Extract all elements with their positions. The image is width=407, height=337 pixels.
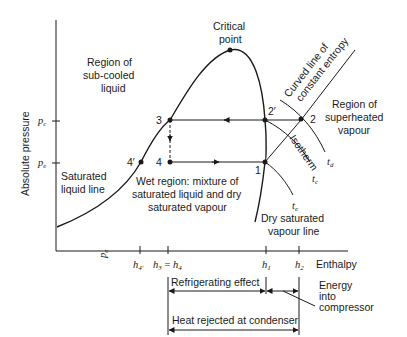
y-tick-pe: pe	[37, 157, 46, 170]
td-label: td	[327, 156, 334, 169]
svg-text:vapour line: vapour line	[268, 225, 320, 237]
x-tick-h4prime: h4′	[133, 259, 144, 272]
point-2prime	[263, 118, 268, 123]
saturated-liquid-label: Saturated liquid line	[61, 170, 107, 195]
subcooled-region-label: Region of sub-cooled liquid	[83, 56, 135, 94]
label-2prime: 2′	[268, 105, 276, 117]
critical-point-label-2: point	[219, 33, 242, 45]
svg-text:liquid: liquid	[101, 82, 126, 94]
svg-text:saturated liquid and dry: saturated liquid and dry	[132, 188, 242, 200]
x-tick-h1: h1	[262, 259, 271, 272]
svg-text:vapour: vapour	[338, 124, 371, 136]
isotherm-te	[265, 162, 293, 195]
wet-region-label: Wet region: mixture of saturated liquid …	[132, 175, 242, 213]
refrigerating-effect-label: Refrigerating effect	[171, 276, 260, 288]
label-2: 2	[310, 113, 316, 125]
superheated-region-label: Region of superheated vapour	[325, 98, 384, 136]
svg-text:liquid line: liquid line	[61, 183, 105, 195]
svg-text:Wet region: mixture of: Wet region: mixture of	[136, 175, 239, 187]
x-tick-h3-h4: h3 = h4	[153, 259, 182, 272]
y-tick-pc: pc	[37, 115, 47, 128]
dry-saturated-label: Dry saturated vapour line	[261, 212, 324, 237]
label-3: 3	[156, 114, 162, 126]
point-critical	[228, 48, 233, 53]
svg-text:Saturated: Saturated	[61, 170, 107, 182]
y-axis-label: Absolute pressure	[19, 111, 31, 196]
svg-text:Dry saturated: Dry saturated	[261, 212, 324, 224]
x-axis-label: Enthalpy	[316, 258, 358, 270]
critical-point-label-1: Critical	[213, 20, 245, 32]
point-4	[168, 160, 173, 165]
cycle-points	[139, 48, 304, 165]
isotherm-label: Isotherm	[287, 132, 320, 173]
svg-text:saturated vapour: saturated vapour	[148, 201, 227, 213]
point-4prime	[139, 160, 144, 165]
label-1: 1	[255, 164, 261, 176]
label-4prime: 4′	[127, 156, 135, 168]
svg-text:Region of: Region of	[87, 56, 132, 68]
ph-diagram: Absolute pressure pc pe pe h4′ h3 = h4 h…	[0, 0, 407, 337]
svg-text:superheated: superheated	[325, 111, 384, 123]
svg-text:compressor: compressor	[319, 301, 374, 313]
point-2	[299, 117, 304, 122]
svg-text:sub-cooled: sub-cooled	[83, 69, 135, 81]
svg-text:Region of: Region of	[332, 98, 377, 110]
x-tick-h2: h2	[295, 259, 304, 272]
energy-compressor-label: Energy into compressor	[319, 279, 374, 313]
tc-label: tc	[312, 173, 319, 186]
constant-entropy-label: Curved line of constant entropy	[281, 27, 351, 107]
heat-rejected-label: Heat rejected at condenser	[172, 314, 299, 326]
label-4: 4	[156, 156, 162, 168]
point-1	[263, 160, 268, 165]
point-3	[168, 118, 173, 123]
